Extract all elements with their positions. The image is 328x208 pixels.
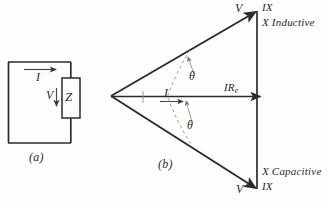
phasor-reactance-type-bottom: X Capacitive xyxy=(262,166,322,177)
resistive-axis-text: IRe xyxy=(224,81,239,93)
figure-canvas: I V Z (a) V IX X Inductive X Capacitive … xyxy=(0,0,328,208)
caption-a: (a) xyxy=(29,151,44,163)
phasor-reactance-type-top: X Inductive xyxy=(262,17,315,28)
phasor-voltage-vector-capacitive xyxy=(111,96,256,188)
impedance-label: Z xyxy=(65,90,72,103)
phasor-reactance-label-bottom: IX xyxy=(262,181,273,192)
phasor-diagram xyxy=(111,11,260,189)
phasor-resistive-axis-label: IRe xyxy=(224,82,239,95)
caption-b: (b) xyxy=(158,158,173,170)
angle-label-lower: θ xyxy=(187,119,193,131)
circuit-voltage-label: V xyxy=(46,89,54,101)
phasor-voltage-label-bottom: V xyxy=(236,183,244,195)
circuit-current-label: I xyxy=(36,71,40,83)
phasor-voltage-label-top: V xyxy=(235,2,243,14)
angle-label-upper: θ xyxy=(189,70,195,82)
phasor-current-label: I xyxy=(164,87,168,99)
phasor-reactance-label-top: IX xyxy=(262,2,273,13)
